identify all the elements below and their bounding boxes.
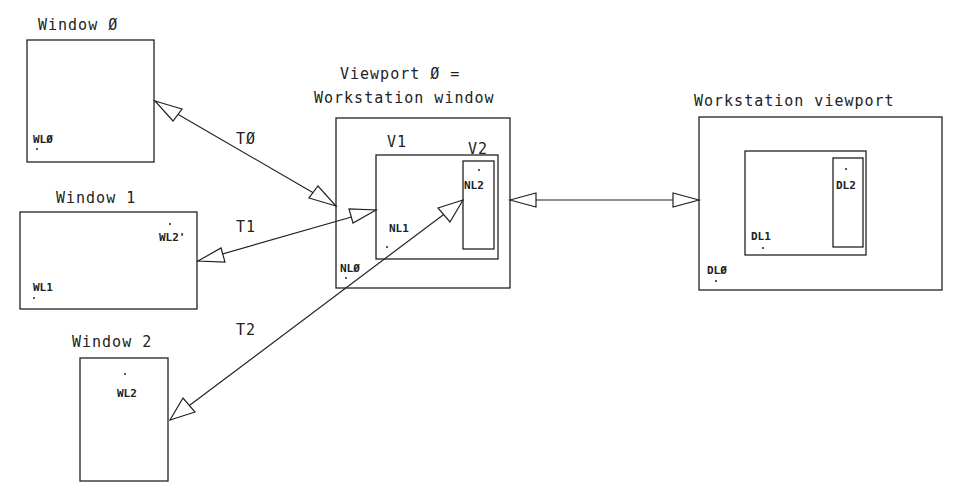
window-0: Window Ø WLØ: [27, 16, 154, 162]
nl0-label: NLØ: [340, 262, 360, 275]
arrowhead-icon: [349, 209, 376, 223]
nl0-point: [345, 277, 347, 279]
window-1: Window 1 WL2' WL1: [20, 189, 197, 309]
wl0-point: [36, 148, 38, 150]
wl2-point: [124, 373, 126, 375]
t2-transform-arrow: T2: [170, 200, 463, 420]
arrowhead-icon: [198, 248, 225, 262]
t2-label: T2: [236, 321, 256, 339]
wl2-label: WL2: [117, 387, 137, 400]
window-2: Window 2 WL2: [72, 333, 168, 481]
t1-label: T1: [236, 218, 256, 236]
t1-transform-arrow: T1: [198, 209, 376, 262]
dl2-label: DL2: [836, 179, 856, 192]
dl0-label: DLØ: [707, 264, 727, 277]
window-2-box: [80, 358, 168, 481]
dl1-label: DL1: [751, 230, 771, 243]
dl0-point: [715, 280, 717, 282]
nl2-label: NL2: [464, 179, 484, 192]
workstation-viewport-box: [699, 117, 942, 290]
arrowhead-icon: [309, 186, 336, 206]
window-0-title: Window Ø: [38, 16, 118, 34]
arrowhead-icon: [673, 193, 699, 207]
arrowhead-icon: [170, 398, 195, 420]
arrowhead-icon: [510, 193, 536, 207]
v1-label: V1: [387, 133, 407, 151]
v2-label: V2: [468, 140, 488, 158]
window-2-title: Window 2: [72, 333, 152, 351]
window-1-box: [20, 212, 197, 309]
v2-box: [463, 161, 494, 249]
arrowhead-icon: [155, 101, 182, 121]
workstation-viewport-title: Workstation viewport: [694, 92, 895, 110]
dl2-point: [845, 168, 847, 170]
arrowhead-icon: [438, 200, 463, 222]
viewport-0-title-line2: Workstation window: [314, 89, 495, 107]
t0-label: TØ: [236, 130, 256, 148]
window-1-title: Window 1: [56, 189, 136, 207]
viewport-0: Viewport Ø = Workstation window V1 V2 NL…: [314, 65, 510, 288]
dl2-box: [833, 158, 863, 247]
wl0-label: WLØ: [33, 133, 53, 146]
workstation-viewport: Workstation viewport DL2 DL1 DLØ: [694, 92, 942, 290]
wl2-prime-point: [169, 223, 171, 225]
t0-transform-arrow: TØ: [155, 101, 336, 206]
wl2-prime-label: WL2': [159, 231, 186, 244]
nl1-label: NL1: [389, 222, 409, 235]
viewport-0-title-line1: Viewport Ø =: [340, 65, 460, 83]
nl2-point: [478, 169, 480, 171]
normalization-transformation-diagram: Window Ø WLØ Window 1 WL2' WL1 Window 2 …: [0, 0, 956, 496]
wl1-point: [33, 297, 35, 299]
nl1-point: [386, 246, 388, 248]
wl1-label: WL1: [33, 281, 53, 294]
dl1-point: [762, 247, 764, 249]
workstation-transform-arrow: [510, 193, 699, 207]
